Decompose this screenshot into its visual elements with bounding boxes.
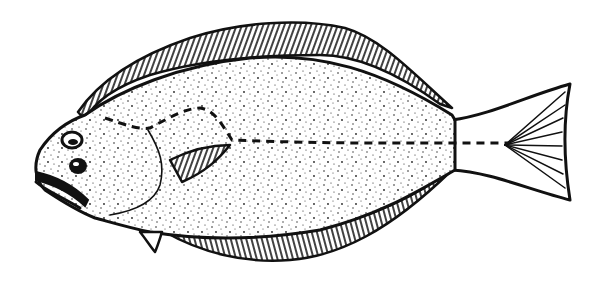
flatfish-illustration [0, 0, 608, 283]
pelvic-fin [140, 232, 162, 252]
lower-eye [69, 158, 87, 174]
